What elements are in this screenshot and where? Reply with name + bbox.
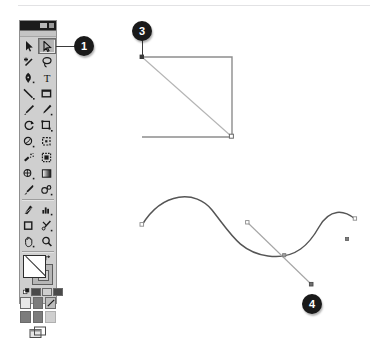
- tool-row: [20, 38, 56, 54]
- pencil-icon: [41, 104, 53, 116]
- rectangle-icon: [41, 88, 53, 100]
- curve-start-anchor: [140, 223, 144, 227]
- none-slash-icon: [47, 299, 55, 307]
- swatch-mode-b[interactable]: [42, 288, 52, 296]
- blend-tool[interactable]: [38, 182, 56, 198]
- lasso-icon: [41, 56, 53, 68]
- magic-wand-icon: [23, 56, 35, 68]
- free-transform-tool[interactable]: [38, 134, 56, 150]
- toolbox-separator: [22, 251, 54, 253]
- letter-T-icon: T: [44, 73, 51, 84]
- top-rule-divider: [18, 5, 370, 6]
- eyedropper-tool[interactable]: [20, 182, 38, 198]
- draw-normal-button[interactable]: [20, 311, 31, 323]
- scissors-tool[interactable]: [38, 218, 56, 234]
- toolbox-title-bar[interactable]: [20, 21, 56, 31]
- tool-row: [20, 134, 56, 150]
- tool-grid: T: [20, 37, 56, 339]
- graph-tool[interactable]: [38, 202, 56, 218]
- mesh-tool[interactable]: [20, 166, 38, 182]
- tool-row: [20, 118, 56, 134]
- pencil-tool[interactable]: [38, 102, 56, 118]
- paintbrush-icon: [23, 104, 35, 116]
- diagonal-selection-line: [142, 57, 231, 136]
- magnifier-icon: [41, 236, 53, 248]
- free-transform-icon: [41, 136, 53, 148]
- hand-tool[interactable]: [20, 234, 38, 250]
- rectangle-bottom-right-anchor: [229, 134, 233, 138]
- rectangle-path: [140, 55, 234, 139]
- paintbrush-tool[interactable]: [20, 102, 38, 118]
- direct-selection-tool[interactable]: [38, 38, 56, 54]
- symbol-sprayer-icon: [23, 152, 35, 164]
- tool-row: [20, 102, 56, 118]
- arrow-solid-icon: [25, 41, 34, 52]
- toolbox-palette[interactable]: T: [19, 20, 57, 304]
- rotate-tool[interactable]: [20, 118, 38, 134]
- column-graph-icon: [41, 152, 53, 164]
- scale-icon: [41, 120, 53, 132]
- hand-icon: [23, 236, 35, 248]
- paint-mode-row: [20, 296, 56, 310]
- bar-graph-icon: [41, 204, 53, 216]
- gradient-tool[interactable]: [38, 166, 56, 182]
- rectangle-tool[interactable]: [38, 86, 56, 102]
- tool-row: [20, 54, 56, 70]
- column-graph-tool[interactable]: [38, 150, 56, 166]
- curve-end-anchor: [353, 217, 356, 220]
- scale-tool[interactable]: [38, 118, 56, 134]
- warp-tool[interactable]: [20, 134, 38, 150]
- screen-mode-icon[interactable]: [29, 326, 47, 339]
- default-fill-stroke-icon[interactable]: [23, 288, 30, 295]
- figure-canvas: T: [0, 0, 377, 340]
- artboard-tool[interactable]: [20, 218, 38, 234]
- callout-1: 1: [74, 36, 94, 56]
- curve-handle-anchor: [345, 237, 348, 240]
- swap-fill-stroke-icon[interactable]: [45, 255, 52, 262]
- gradient-bar-icon: [41, 168, 53, 180]
- toolbox-separator: [22, 199, 54, 201]
- collapse-icon[interactable]: [40, 23, 47, 28]
- eyedropper-icon: [23, 184, 35, 196]
- callout-3: 3: [132, 21, 152, 41]
- type-tool[interactable]: T: [38, 70, 56, 86]
- none-mode-button[interactable]: [45, 297, 56, 309]
- bezier-curve-path: [140, 197, 357, 286]
- tool-row: [20, 234, 56, 250]
- tool-row: [20, 166, 56, 182]
- swatch-mode-c[interactable]: [53, 288, 63, 296]
- diagonal-line-icon: [23, 88, 35, 100]
- slice-tool[interactable]: [20, 202, 38, 218]
- symbol-sprayer-tool[interactable]: [20, 150, 38, 166]
- gradient-mode-button[interactable]: [33, 297, 44, 309]
- tool-row: [20, 182, 56, 198]
- tool-row: [20, 150, 56, 166]
- color-controls[interactable]: [23, 255, 53, 295]
- close-icon[interactable]: [49, 23, 54, 28]
- swatch-mode-strip: [31, 288, 63, 296]
- lasso-tool[interactable]: [38, 54, 56, 70]
- selection-tool[interactable]: [20, 38, 38, 54]
- callout-3-leader: [142, 38, 143, 58]
- pen-tool[interactable]: [20, 70, 38, 86]
- scissors-icon: [41, 220, 53, 232]
- curve-direction-handle: [247, 222, 311, 284]
- tool-row: T: [20, 70, 56, 86]
- warp-icon: [23, 136, 35, 148]
- zoom-tool[interactable]: [38, 234, 56, 250]
- line-segment-tool[interactable]: [20, 86, 38, 102]
- curve-middle-anchor: [246, 221, 249, 224]
- draw-inside-button[interactable]: [45, 311, 56, 323]
- color-mode-button[interactable]: [20, 297, 31, 309]
- drawing-mode-row: [20, 310, 56, 324]
- artboard-icon: [23, 220, 35, 232]
- swatch-mode-a[interactable]: [31, 288, 41, 296]
- screen-mode-row: [20, 324, 56, 339]
- tool-row: [20, 86, 56, 102]
- blend-icon: [41, 184, 53, 196]
- rotate-icon: [23, 120, 35, 132]
- fill-swatch[interactable]: [23, 255, 46, 278]
- magic-wand-tool[interactable]: [20, 54, 38, 70]
- draw-behind-button[interactable]: [33, 311, 44, 323]
- curve-lower-anchor: [283, 254, 286, 257]
